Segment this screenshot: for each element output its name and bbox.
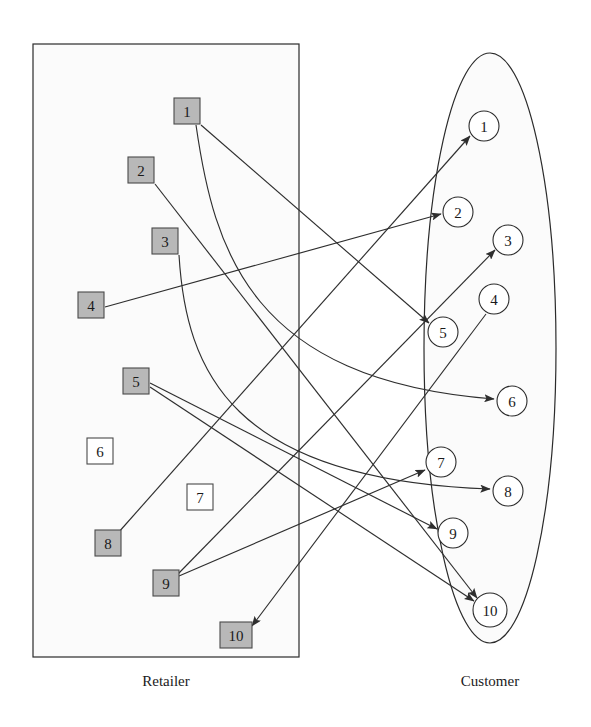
customer-node-label-8: 8 xyxy=(504,484,512,500)
retailer-node-label-10: 10 xyxy=(229,628,244,644)
customer-node-label-9: 9 xyxy=(449,526,457,542)
customer-node-label-3: 3 xyxy=(504,233,512,249)
customer-node-2[interactable]: 2 xyxy=(443,197,473,227)
retailer-node-label-4: 4 xyxy=(87,298,95,314)
bipartite-network-diagram: 12345678910 12345678910 Retailer Custome… xyxy=(0,0,591,727)
retailer-node-label-8: 8 xyxy=(104,536,112,552)
customer-node-label-10: 10 xyxy=(483,603,498,619)
customer-node-4[interactable]: 4 xyxy=(479,284,509,314)
retailer-node-7[interactable]: 7 xyxy=(187,484,213,510)
customer-node-label-1: 1 xyxy=(480,119,488,135)
customer-node-label-6: 6 xyxy=(508,394,516,410)
figure-canvas: 12345678910 12345678910 Retailer Custome… xyxy=(0,0,591,727)
retailer-node-8[interactable]: 8 xyxy=(95,530,121,556)
retailer-node-6[interactable]: 6 xyxy=(87,438,113,464)
customer-node-1[interactable]: 1 xyxy=(469,111,499,141)
customer-node-9[interactable]: 9 xyxy=(438,518,468,548)
customer-node-8[interactable]: 8 xyxy=(493,476,523,506)
customer-node-label-4: 4 xyxy=(490,292,498,308)
retailer-node-label-6: 6 xyxy=(96,444,104,460)
customer-node-label-7: 7 xyxy=(437,455,445,471)
retailer-node-label-3: 3 xyxy=(161,234,169,250)
retailer-node-label-5: 5 xyxy=(132,374,140,390)
retailer-node-2[interactable]: 2 xyxy=(128,157,154,183)
retailer-node-1[interactable]: 1 xyxy=(174,98,200,124)
retailer-group-caption: Retailer xyxy=(142,673,189,689)
customer-node-5[interactable]: 5 xyxy=(428,317,458,347)
customer-node-7[interactable]: 7 xyxy=(426,447,456,477)
retailer-node-4[interactable]: 4 xyxy=(78,292,104,318)
retailer-node-label-1: 1 xyxy=(183,104,191,120)
retailer-node-label-9: 9 xyxy=(162,576,170,592)
customer-node-6[interactable]: 6 xyxy=(497,386,527,416)
retailer-node-5[interactable]: 5 xyxy=(123,368,149,394)
retailer-node-9[interactable]: 9 xyxy=(153,570,179,596)
retailer-group-container xyxy=(33,44,299,657)
customer-node-label-5: 5 xyxy=(439,325,447,341)
customer-node-10[interactable]: 10 xyxy=(473,593,507,627)
retailer-node-label-7: 7 xyxy=(196,490,204,506)
customer-group-caption: Customer xyxy=(461,673,519,689)
retailer-node-10[interactable]: 10 xyxy=(220,622,252,648)
retailer-node-3[interactable]: 3 xyxy=(152,228,178,254)
retailer-node-label-2: 2 xyxy=(137,163,145,179)
customer-node-label-2: 2 xyxy=(454,205,462,221)
customer-node-3[interactable]: 3 xyxy=(493,225,523,255)
